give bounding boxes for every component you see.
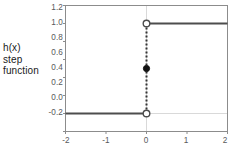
x-axis-tick-labels: -2 -1 0 1 2 (0, 0, 230, 152)
x-tick-label: -2 (54, 136, 78, 145)
x-tick-label: -1 (94, 136, 118, 145)
x-tick-label: 1 (174, 136, 198, 145)
step-function-chart: h(x) step function 1.2 1.0 0.8 0.6 0.4 0… (0, 0, 230, 152)
x-tick-label: 0 (134, 136, 158, 145)
x-tick-label: 2 (213, 136, 230, 145)
